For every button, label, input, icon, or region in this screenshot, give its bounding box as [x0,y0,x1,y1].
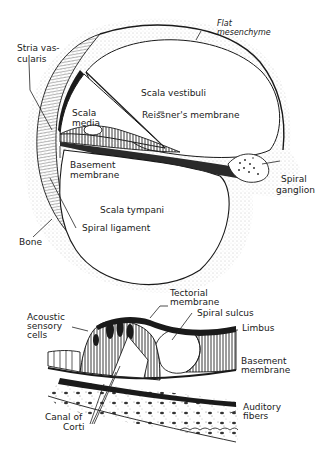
label-tectorial-membrane: Tectorial membrane [169,288,220,307]
label-scala-media: Scala media [72,108,100,128]
bottom-panel: Tectorial membrane Spiral sulcus Limbus … [27,288,291,442]
top-panel: Flat mesenchyme Stria vas- cularis Scala… [17,18,315,293]
leader-tectorial [150,306,168,318]
label-canal-of-corti: Canal of Corti [45,412,85,432]
label-spiral-sulcus: Spiral sulcus [197,308,254,318]
label-flat-mesenchyme: Flat mesenchyme [217,19,271,37]
label-basement-membrane-top: Basement membrane [70,160,120,180]
label-reissners-membrane: Reissner's membrane [142,110,240,120]
label-scala-tympani: Scala tympani [100,205,164,215]
label-acoustic-sensory-cells: Acoustic sensory cells [27,312,68,340]
label-bone: Bone [19,237,42,247]
cochlea-diagram: Flat mesenchyme Stria vas- cularis Scala… [0,0,331,461]
label-auditory-fibers: Auditory fibers [243,402,284,421]
leader-acoustic-cells [72,327,88,331]
label-spiral-ligament: Spiral ligament [82,223,151,233]
label-limbus: Limbus [242,323,275,333]
label-spiral-ganglion: Spiral ganglion [276,174,315,195]
label-basement-membrane-bottom: Basement membrane [241,356,291,375]
label-scala-vestibuli: Scala vestibuli [141,88,206,98]
